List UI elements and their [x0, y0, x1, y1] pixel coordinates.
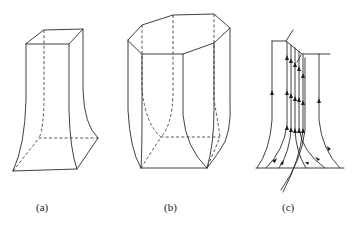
panel-c-flow-lines — [256, 30, 344, 192]
panel-b-octagonal-prism — [128, 14, 230, 168]
label-a: (a) — [36, 201, 49, 214]
label-c: (c) — [282, 201, 295, 214]
figure-canvas: (a) (b) (c) — [0, 0, 356, 226]
label-b: (b) — [164, 201, 177, 214]
panel-a-square-prism — [13, 29, 98, 171]
